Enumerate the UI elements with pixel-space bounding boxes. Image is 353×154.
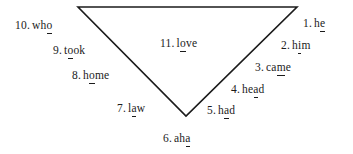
label-word: had bbox=[218, 104, 235, 116]
triangle-shape bbox=[0, 0, 353, 154]
underlined-letter: o bbox=[89, 69, 95, 81]
label-number: 7. bbox=[117, 102, 126, 114]
label-number: 9. bbox=[53, 44, 62, 56]
letter: w bbox=[137, 102, 146, 114]
word-triangle-figure: 1.he2.him3.came4.head5.had6.aha7.law8.ho… bbox=[0, 0, 353, 154]
label-number: 5. bbox=[207, 104, 216, 116]
letter: a bbox=[271, 61, 276, 73]
label-word: came bbox=[266, 61, 291, 73]
underlined-letter: a bbox=[185, 132, 190, 144]
label-number: 1. bbox=[303, 17, 312, 29]
underlined-letter: a bbox=[224, 104, 229, 116]
letter: k bbox=[79, 44, 85, 56]
word-label-law: 7.law bbox=[117, 103, 145, 115]
label-number: 3. bbox=[255, 61, 264, 73]
underlined-letter: o bbox=[67, 44, 73, 56]
letter: d bbox=[259, 83, 265, 95]
letter: e bbox=[286, 61, 291, 73]
word-label-him: 2.him bbox=[281, 40, 311, 52]
word-label-he: 1.he bbox=[303, 18, 325, 30]
word-label-head: 4.head bbox=[231, 84, 265, 96]
label-number: 6. bbox=[163, 132, 172, 144]
label-number: 4. bbox=[231, 83, 240, 95]
letter: w bbox=[32, 19, 41, 31]
underlined-letter: a bbox=[131, 102, 136, 114]
label-word: love bbox=[177, 37, 198, 49]
letter: m bbox=[95, 69, 104, 81]
label-word: he bbox=[314, 17, 325, 29]
label-word: took bbox=[64, 44, 85, 56]
label-word: law bbox=[128, 102, 145, 114]
underlined-letter: i bbox=[298, 39, 301, 51]
label-number: 11. bbox=[160, 37, 175, 49]
word-label-love: 11.love bbox=[160, 38, 197, 50]
underlined-letter: m bbox=[277, 61, 286, 73]
underlined-letter: a bbox=[253, 83, 258, 95]
underlined-letter: o bbox=[46, 19, 52, 31]
word-label-who: 10.who bbox=[15, 20, 52, 32]
label-number: 10. bbox=[15, 19, 30, 31]
underlined-letter: e bbox=[320, 17, 325, 29]
word-label-came: 3.came bbox=[255, 62, 291, 74]
label-word: home bbox=[83, 69, 109, 81]
label-word: who bbox=[32, 19, 52, 31]
letter: d bbox=[229, 104, 235, 116]
label-word: head bbox=[242, 83, 265, 95]
underlined-letter: o bbox=[180, 37, 186, 49]
letter: e bbox=[104, 69, 109, 81]
word-label-had: 5.had bbox=[207, 105, 235, 117]
label-word: him bbox=[292, 39, 311, 51]
label-word: aha bbox=[174, 132, 191, 144]
word-label-took: 9.took bbox=[53, 45, 85, 57]
word-label-home: 8.home bbox=[72, 70, 109, 82]
word-label-aha: 6.aha bbox=[163, 133, 191, 145]
letter: e bbox=[192, 37, 197, 49]
label-number: 2. bbox=[281, 39, 290, 51]
letter: m bbox=[301, 39, 310, 51]
label-number: 8. bbox=[72, 69, 81, 81]
